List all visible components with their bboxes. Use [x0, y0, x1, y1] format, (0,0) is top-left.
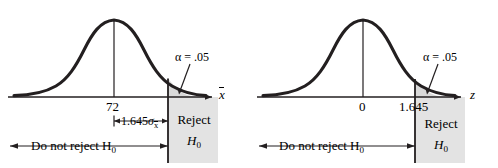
axis-label-z: z: [470, 88, 475, 101]
alpha-label: α = .05: [175, 51, 209, 63]
statistics-figure: 72 x α = .05 1.645σx Reject H0 Do not re…: [0, 0, 498, 168]
do-not-reject-label: Do not reject H0: [31, 139, 116, 155]
panel-x-bar-scale: 72 x α = .05 1.645σx Reject H0 Do not re…: [0, 0, 249, 168]
tick-label-mean: 72: [106, 100, 119, 113]
reject-label-line1: Reject: [172, 113, 216, 126]
reject-label-line2: H0: [419, 138, 463, 154]
tick-label-critical-value: 1.645: [399, 100, 428, 113]
alpha-leader-line: [428, 64, 438, 91]
axis-label-x-bar: x: [219, 88, 225, 101]
panel-z-scale: 0 1.645 z α = .05 Reject H0 Do not rejec…: [249, 0, 498, 168]
do-not-reject-text: Do not reject H: [279, 138, 360, 153]
sigma-measure-arrow-left: [114, 118, 120, 123]
do-not-reject-label: Do not reject H0: [279, 139, 364, 155]
rejection-region-box: [168, 97, 218, 163]
tick-label-mean: 0: [359, 100, 366, 113]
reject-label-line2: H0: [172, 134, 216, 150]
alpha-label: α = .05: [423, 51, 457, 63]
dnr-arrow-left: [10, 143, 18, 149]
sigma-distance-label: 1.645σx: [121, 115, 158, 130]
dnr-arrow-left: [259, 143, 267, 149]
reject-label-line1: Reject: [419, 117, 463, 130]
do-not-reject-text: Do not reject H: [31, 138, 112, 153]
dnr-arrow-right: [160, 143, 168, 149]
alpha-leader-line: [180, 64, 190, 91]
dnr-arrow-right: [407, 143, 415, 149]
